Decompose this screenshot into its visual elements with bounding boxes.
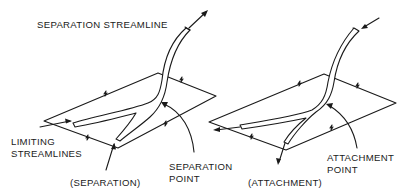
limiting-streamline-left [40,121,70,127]
separation-point-pointer [164,104,194,152]
attachment-plane-break-mark [330,125,333,130]
attachment-panel: ATTACHMENT POINT (ATTACHMENT) [209,18,396,188]
flow-diagram: SEPARATION STREAMLINE LIMITING STREAMLIN… [0,0,408,191]
attachment-caption: (ATTACHMENT) [248,177,322,188]
attachment-streamline-entry [364,18,379,27]
attachment-limiting-streamline-arrowhead [276,158,281,165]
attachment-point-label-line2: POINT [327,164,358,175]
separation-streamline-label: SEPARATION STREAMLINE [37,19,168,30]
attachment-surface-plane [209,74,396,150]
separation-caption: (SEPARATION) [70,177,140,188]
separation-plane-break-mark [86,135,89,140]
separation-panel: SEPARATION STREAMLINE LIMITING STREAMLIN… [11,10,232,188]
attachment-point-arrowhead [326,103,333,109]
limiting-streamlines-label-line2: STREAMLINES [11,148,82,159]
attachment-limiting-streamline-arrowhead [213,127,220,132]
limiting-streamline-arrowhead [65,119,72,124]
separation-point-label-line1: SEPARATION [169,161,232,172]
separation-point-label-line2: POINT [169,173,200,184]
attachment-point-label-line1: ATTACHMENT [327,152,394,163]
attachment-point-pointer [330,106,357,148]
separation-plane-break-mark [180,77,183,82]
limiting-streamlines-label-line1: LIMITING [11,136,55,147]
